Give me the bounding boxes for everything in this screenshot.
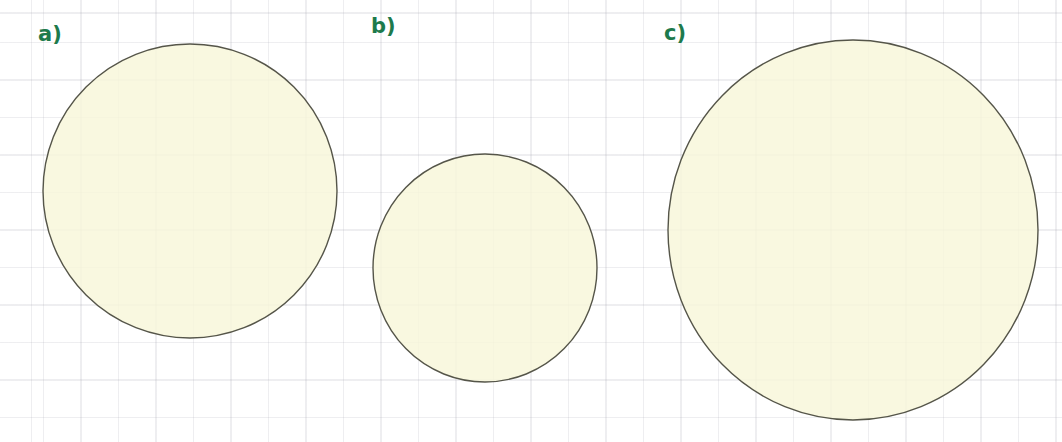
circle-a [43, 44, 337, 338]
circle-c [668, 40, 1038, 420]
panel-label-b: b) [371, 16, 396, 37]
circle-b [373, 154, 597, 382]
figure-canvas: — —— —— —— — a) b) c) [0, 0, 1062, 442]
panel-label-c: c) [664, 23, 686, 44]
circles-figure [0, 0, 1062, 442]
panel-label-a: a) [38, 24, 62, 45]
